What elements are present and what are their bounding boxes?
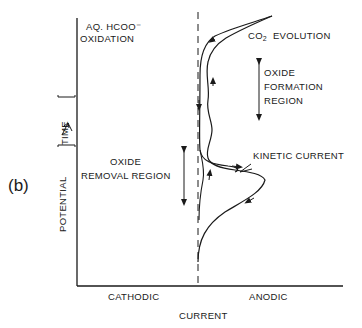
co2-subscript: 2	[263, 35, 267, 42]
time-bracket-label: TIME	[59, 121, 70, 145]
x-axis-label: CURRENT	[179, 310, 228, 322]
kinetic-current-label: KINETIC CURRENT	[253, 150, 344, 162]
kinetic-leader	[240, 164, 252, 172]
anodic-sweep-curve	[198, 16, 272, 262]
co2-evolution-label: CO2 EVOLUTION	[248, 30, 331, 45]
oxide-removal-label-line2: REMOVAL REGION	[81, 170, 171, 182]
oxide-formation-label-line1: OXIDE	[264, 67, 295, 79]
co2-suffix: EVOLUTION	[273, 30, 331, 41]
x-right-label: ANODIC	[249, 291, 288, 303]
aq-oxidation-label-line1: AQ. HCOO⁻	[86, 21, 141, 33]
x-left-label: CATHODIC	[108, 291, 159, 303]
oxide-removal-label-line1: OXIDE	[110, 156, 141, 168]
co2-prefix: CO	[248, 30, 263, 41]
oxide-formation-label-line3: REGION	[264, 95, 303, 107]
oxide-formation-label-line2: FORMATION	[264, 81, 323, 93]
arrow-icon	[209, 172, 210, 180]
return-branch	[199, 150, 204, 220]
panel-label: (b)	[8, 176, 29, 196]
y-axis-label: POTENTIAL	[57, 177, 68, 233]
voltammogram-plot	[0, 0, 362, 328]
aq-oxidation-label-line2: OXIDATION	[80, 33, 134, 45]
